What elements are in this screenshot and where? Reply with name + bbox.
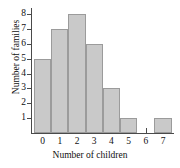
histogram-figure: Number of families 12345678 01234567 Num… bbox=[0, 0, 180, 168]
bar bbox=[154, 118, 171, 133]
bar bbox=[86, 44, 103, 133]
y-axis-tick bbox=[27, 59, 32, 60]
y-axis-tick-label: 7 bbox=[17, 24, 26, 34]
x-axis-tick-label: 2 bbox=[70, 136, 84, 146]
x-axis-tick-label: 3 bbox=[87, 136, 101, 146]
x-axis-title: Number of children bbox=[0, 150, 180, 160]
y-axis-tick bbox=[27, 29, 32, 30]
y-axis-tick bbox=[27, 103, 32, 104]
x-axis-tick-label: 1 bbox=[53, 136, 67, 146]
x-axis-tick-label: 7 bbox=[156, 136, 170, 146]
y-axis-tick bbox=[27, 74, 32, 75]
bar bbox=[68, 14, 85, 133]
y-axis-tick bbox=[27, 44, 32, 45]
bar bbox=[51, 29, 68, 133]
y-axis-tick bbox=[27, 88, 32, 89]
bar bbox=[103, 88, 120, 133]
y-axis-tick-label: 8 bbox=[17, 9, 26, 19]
x-axis-tick-label: 5 bbox=[122, 136, 136, 146]
bar bbox=[120, 118, 137, 133]
y-axis-line bbox=[31, 8, 32, 134]
y-axis-tick-label: 1 bbox=[17, 113, 26, 123]
x-axis-tick-label: 6 bbox=[139, 136, 153, 146]
y-axis-tick bbox=[27, 118, 32, 119]
x-axis-tick bbox=[146, 128, 147, 134]
x-axis-tick-label: 0 bbox=[36, 136, 50, 146]
y-axis-tick-label: 2 bbox=[17, 98, 26, 108]
y-axis-tick-label: 5 bbox=[17, 54, 26, 64]
y-axis-tick-label: 4 bbox=[17, 69, 26, 79]
bar bbox=[34, 59, 51, 133]
y-axis-tick-label: 3 bbox=[17, 83, 26, 93]
x-axis-tick-label: 4 bbox=[104, 136, 118, 146]
y-axis-tick-label: 6 bbox=[17, 39, 26, 49]
y-axis-tick bbox=[27, 14, 32, 15]
x-axis-line bbox=[31, 133, 174, 134]
